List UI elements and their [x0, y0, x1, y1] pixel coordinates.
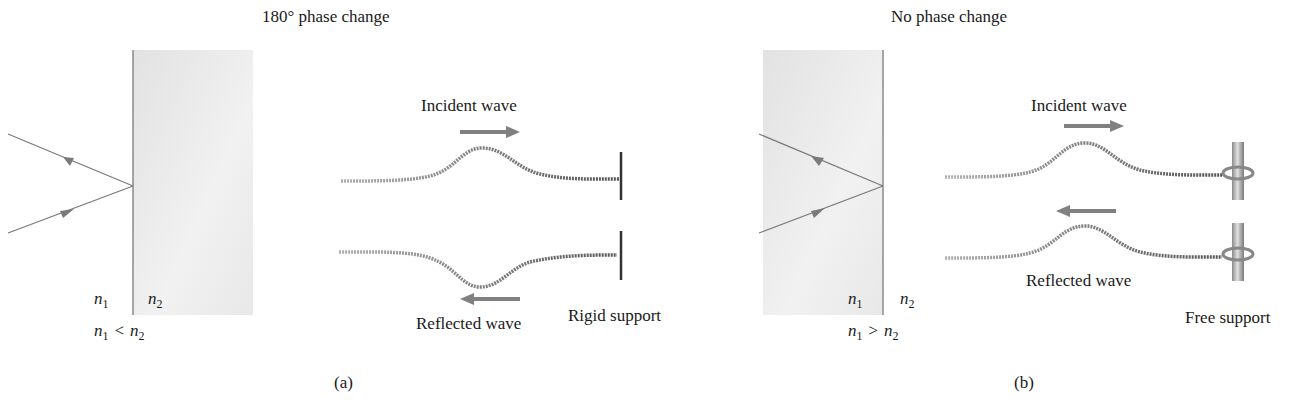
panel-b-medium-right-label: n2	[900, 290, 915, 310]
incident-pulse-rope	[341, 148, 620, 181]
reflected-ray-arrowhead-icon	[63, 157, 74, 166]
panel-b-optics	[759, 50, 883, 315]
panel-a-rope	[339, 126, 621, 305]
medium-n1-block	[763, 50, 883, 315]
incident-arrowhead-icon	[506, 126, 520, 138]
free-support-pole-top	[1232, 142, 1244, 200]
panel-a-index-relation: n1<n2	[94, 322, 145, 342]
panel-b-medium-left-label: n1	[848, 290, 863, 310]
panel-a-title: 180° phase change	[262, 8, 390, 25]
panel-a-optics	[8, 50, 253, 315]
panel-b-title: No phase change	[891, 8, 1007, 25]
reflected-arrowhead-icon	[1056, 205, 1070, 217]
reflected-arrowhead-icon	[460, 293, 474, 305]
panel-a-medium-right-label: n2	[148, 290, 163, 310]
panel-b-incident-label: Incident wave	[1031, 97, 1127, 114]
medium-n2-block	[133, 50, 253, 315]
reflected-pulse-rope	[339, 252, 617, 287]
incident-ray-arrowhead-icon	[60, 209, 74, 218]
diagram-canvas	[0, 0, 1299, 409]
panel-a-incident-label: Incident wave	[421, 97, 517, 114]
panel-a-support-label: Rigid support	[568, 307, 661, 324]
panel-a-caption: (a)	[334, 374, 353, 391]
panel-b-index-relation: n1>n2	[848, 322, 899, 342]
panel-a-reflected-label: Reflected wave	[416, 315, 521, 332]
free-support-pole-bottom	[1232, 223, 1244, 281]
panel-b-caption: (b)	[1014, 374, 1034, 391]
panel-b-rope	[945, 120, 1253, 281]
incident-pulse-rope	[945, 143, 1222, 177]
panel-a-medium-left-label: n1	[94, 290, 109, 310]
panel-b-reflected-label: Reflected wave	[1026, 272, 1131, 289]
incident-arrowhead-icon	[1110, 120, 1124, 132]
reflected-pulse-rope	[945, 226, 1222, 258]
panel-b-support-label: Free support	[1185, 309, 1270, 326]
